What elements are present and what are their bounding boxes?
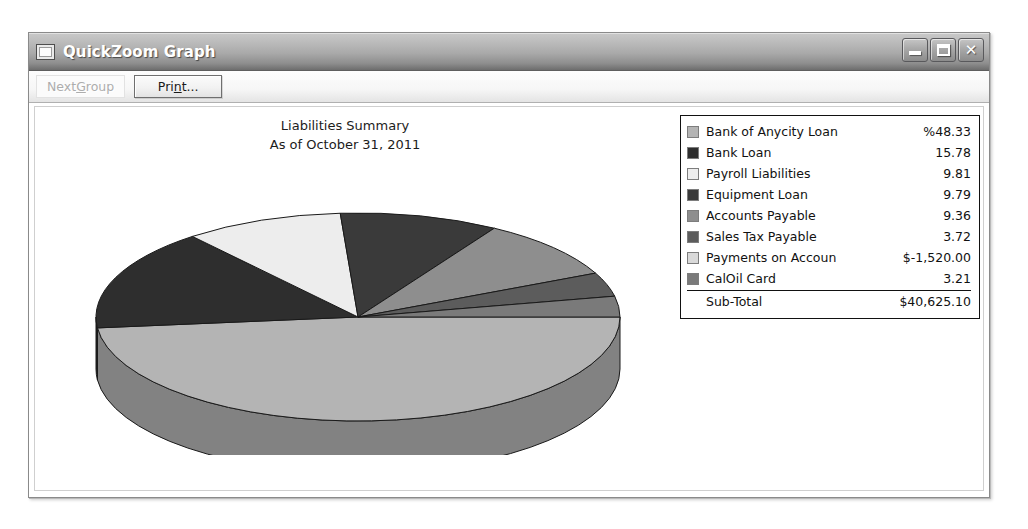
legend-item: CalOil Card3.21 bbox=[687, 268, 971, 289]
legend-swatch-icon bbox=[687, 147, 699, 159]
legend-item-value: 3.21 bbox=[933, 268, 971, 289]
legend-item: Equipment Loan9.79 bbox=[687, 184, 971, 205]
legend-swatch-icon bbox=[687, 231, 699, 243]
print-button[interactable]: Print... bbox=[134, 75, 222, 98]
legend-swatch-icon bbox=[687, 168, 699, 180]
legend-item-label: Bank of Anycity Loan bbox=[706, 121, 913, 142]
legend-rows: Bank of Anycity Loan%48.33Bank Loan15.78… bbox=[687, 121, 971, 289]
legend-item: Bank of Anycity Loan%48.33 bbox=[687, 121, 971, 142]
next-group-label-pre: Next bbox=[47, 79, 76, 94]
maximize-icon bbox=[937, 44, 950, 56]
legend-item-value: 9.79 bbox=[933, 184, 971, 205]
close-icon: ✕ bbox=[959, 39, 983, 61]
legend-swatch-icon bbox=[687, 273, 699, 285]
legend-item-label: Bank Loan bbox=[706, 142, 925, 163]
window-toolbar: Next Group Print... bbox=[29, 71, 989, 103]
minimize-icon bbox=[909, 51, 921, 55]
legend-item-label: Equipment Loan bbox=[706, 184, 933, 205]
legend-item-value: 15.78 bbox=[925, 142, 971, 163]
legend-swatch-icon bbox=[687, 126, 699, 138]
titlebar-buttons: ✕ bbox=[902, 38, 984, 62]
legend-item: Bank Loan15.78 bbox=[687, 142, 971, 163]
print-label-post: t... bbox=[182, 79, 199, 94]
maximize-button[interactable] bbox=[930, 38, 956, 62]
graph-canvas: Liabilities Summary As of October 31, 20… bbox=[34, 106, 984, 491]
legend-swatch-icon bbox=[687, 210, 699, 222]
legend-item: Payroll Liabilities9.81 bbox=[687, 163, 971, 184]
window-title: QuickZoom Graph bbox=[63, 43, 216, 61]
window-client-area: Liabilities Summary As of October 31, 20… bbox=[29, 103, 989, 497]
next-group-button[interactable]: Next Group bbox=[36, 75, 125, 98]
legend-item-label: Sales Tax Payable bbox=[706, 226, 933, 247]
window-titlebar[interactable]: QuickZoom Graph ✕ bbox=[29, 33, 989, 71]
legend-item-value: 3.72 bbox=[933, 226, 971, 247]
legend-item-value: $-1,520.00 bbox=[893, 247, 971, 268]
legend-item-value: %48.33 bbox=[913, 121, 971, 142]
close-button[interactable]: ✕ bbox=[958, 38, 984, 62]
legend-item: Accounts Payable9.36 bbox=[687, 205, 971, 226]
legend-item: Payments on Accoun$-1,520.00 bbox=[687, 247, 971, 268]
pie-chart-svg bbox=[63, 185, 653, 455]
legend-item-value: 9.36 bbox=[933, 205, 971, 226]
chart-legend: Bank of Anycity Loan%48.33Bank Loan15.78… bbox=[680, 115, 980, 319]
legend-subtotal-value: $40,625.10 bbox=[889, 291, 971, 313]
minimize-button[interactable] bbox=[902, 38, 928, 62]
pie-top-slices bbox=[96, 213, 620, 421]
legend-item-label: Payroll Liabilities bbox=[706, 163, 933, 184]
chart-subtitle: As of October 31, 2011 bbox=[35, 136, 655, 155]
chart-title: Liabilities Summary bbox=[35, 117, 655, 136]
legend-item: Sales Tax Payable3.72 bbox=[687, 226, 971, 247]
legend-subtotal-label: Sub-Total bbox=[706, 291, 889, 313]
legend-item-label: CalOil Card bbox=[706, 268, 933, 289]
print-accel: n bbox=[174, 79, 182, 94]
legend-item-label: Accounts Payable bbox=[706, 205, 933, 226]
window-app-icon bbox=[36, 44, 55, 60]
print-label-pre: Pri bbox=[158, 79, 174, 94]
quickzoom-graph-window: QuickZoom Graph ✕ Next Group Print... bbox=[28, 32, 990, 498]
legend-swatch-icon bbox=[687, 189, 699, 201]
screenshot-root: QuickZoom Graph ✕ Next Group Print... bbox=[0, 0, 1028, 529]
legend-subtotal-row: Sub-Total $40,625.10 bbox=[687, 290, 971, 313]
legend-item-label: Payments on Accoun bbox=[706, 247, 893, 268]
pie-chart bbox=[63, 185, 653, 455]
legend-swatch-icon bbox=[687, 252, 699, 264]
next-group-accel: G bbox=[76, 79, 86, 94]
chart-title-block: Liabilities Summary As of October 31, 20… bbox=[35, 117, 655, 155]
next-group-label-post: roup bbox=[86, 79, 114, 94]
legend-item-value: 9.81 bbox=[933, 163, 971, 184]
